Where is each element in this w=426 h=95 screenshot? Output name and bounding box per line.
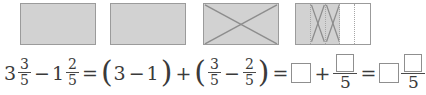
fifth-strip-1: [296, 4, 311, 44]
fractions-group-right-denominator: 5: [243, 72, 256, 88]
fractions-group-left-denominator: 5: [208, 72, 221, 88]
final-answer-mixed-number: 5: [378, 54, 426, 92]
mixed-2-denominator: 5: [66, 72, 79, 88]
plus-operator-2: +: [312, 62, 332, 84]
mixed-2-fraction: 2 5: [66, 57, 79, 87]
wholes-group-open-paren: (: [100, 60, 114, 84]
mixed-1-denominator: 5: [18, 72, 31, 88]
wholes-group-operator: −: [127, 62, 147, 84]
final-answer-whole-box[interactable]: [379, 63, 399, 83]
mixed-1-numerator: 3: [18, 57, 31, 72]
answer-fraction: 5: [333, 54, 357, 92]
fractions-group-open-paren: (: [193, 60, 207, 84]
equals-sign-2: =: [271, 62, 291, 84]
fractions-group-right-numerator: 2: [243, 57, 256, 72]
area-model-whole-3-crossed: [203, 3, 279, 45]
area-model-row: [0, 0, 392, 48]
fifth-strip-4: [340, 4, 355, 44]
equals-sign-3: =: [358, 62, 378, 84]
wholes-group-left: 3: [114, 62, 127, 84]
area-model-fifths: [295, 3, 371, 45]
fractions-group-right: 2 5: [243, 57, 256, 87]
answer-fraction-denominator: 5: [333, 73, 357, 92]
fifth-strip-2: [311, 4, 326, 44]
final-answer-denominator: 5: [401, 73, 425, 92]
fifth-strip-5: [355, 4, 370, 44]
fractions-group-left: 3 5: [208, 57, 221, 87]
fifth-strip-3: [326, 4, 341, 44]
cross-out-icon: [204, 4, 278, 45]
answer-whole-box[interactable]: [291, 63, 311, 83]
area-model-whole-2: [110, 3, 186, 45]
equals-sign-1: =: [80, 62, 100, 84]
fractions-group-close-paren: ): [257, 60, 271, 84]
cross-out-icon: [326, 4, 340, 43]
fractions-group-operator: −: [222, 62, 242, 84]
answer-fraction-numerator-box[interactable]: [336, 54, 354, 72]
final-answer-numerator-box[interactable]: [404, 54, 422, 72]
fractions-group-left-numerator: 3: [208, 57, 221, 72]
mixed-2-numerator: 2: [66, 57, 79, 72]
wholes-group-close-paren: ): [160, 60, 174, 84]
cross-out-icon: [311, 4, 325, 43]
equation-line: 3 3 5 − 1 2 5 = ( 3 − 1 ) + ( 3 5 − 2 5 …: [4, 50, 426, 95]
wholes-group-right: 1: [147, 62, 160, 84]
mixed-1-whole: 3: [4, 62, 17, 84]
area-model-whole-1: [20, 3, 96, 45]
plus-operator-1: +: [173, 62, 193, 84]
mixed-1-fraction: 3 5: [18, 57, 31, 87]
mixed-2-whole: 1: [52, 62, 65, 84]
minus-operator: −: [32, 62, 52, 84]
fifths-strips: [296, 4, 370, 44]
final-answer-fraction: 5: [401, 54, 425, 92]
